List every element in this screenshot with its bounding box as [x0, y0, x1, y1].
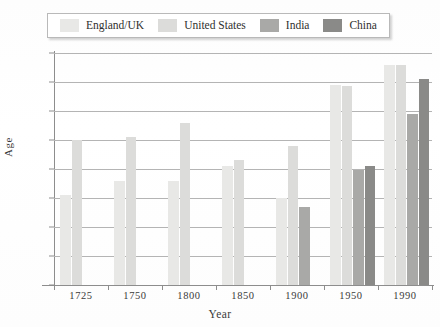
y-axis-tick-mark — [49, 198, 54, 199]
bar[interactable] — [222, 166, 233, 285]
bar[interactable] — [299, 207, 310, 285]
bar[interactable] — [126, 137, 137, 285]
bar[interactable] — [330, 85, 341, 285]
bar-group — [114, 53, 160, 285]
bar[interactable] — [168, 181, 179, 285]
y-axis-tick-mark — [49, 140, 54, 141]
bar-group — [60, 53, 106, 285]
x-axis-tick-mark — [216, 285, 217, 290]
chart-page: England/UKUnited StatesIndiaChina Age 01… — [0, 0, 440, 327]
x-axis-tick-label: 1850 — [231, 290, 254, 301]
y-axis-tick-mark — [49, 256, 54, 257]
bar[interactable] — [276, 198, 287, 285]
legend-entry[interactable]: England/UK — [60, 19, 144, 32]
bar-group — [384, 53, 430, 285]
bar-group — [276, 53, 322, 285]
x-axis-line — [42, 285, 434, 286]
x-axis-tick-mark — [432, 285, 433, 290]
y-axis-tick-mark — [49, 169, 54, 170]
y-axis-tick-mark — [49, 111, 54, 112]
legend-swatch-icon — [158, 19, 177, 32]
x-axis-tick-mark — [162, 285, 163, 290]
bar[interactable] — [72, 140, 83, 285]
bar[interactable] — [114, 181, 125, 285]
x-axis-tick-label: 1900 — [285, 290, 308, 301]
legend-entry[interactable]: India — [260, 19, 310, 32]
legend-swatch-icon — [60, 19, 79, 32]
legend-swatch-icon — [323, 19, 342, 32]
bar-group — [330, 53, 376, 285]
x-axis-tick-label: 1725 — [69, 290, 92, 301]
legend-swatch-icon — [260, 19, 279, 32]
x-axis-tick-label: 1800 — [177, 290, 200, 301]
bar[interactable] — [353, 170, 364, 285]
legend-entry[interactable]: United States — [158, 19, 246, 32]
bar[interactable] — [384, 65, 395, 285]
bar-group — [168, 53, 214, 285]
y-axis-tick-mark — [49, 227, 54, 228]
bar[interactable] — [234, 160, 245, 285]
x-axis-tick-mark — [378, 285, 379, 290]
x-axis-tick-mark — [54, 285, 55, 290]
bar[interactable] — [396, 65, 407, 285]
x-axis-tick-label: 1990 — [393, 290, 416, 301]
y-axis-tick-mark — [49, 53, 54, 54]
bar-group — [222, 53, 268, 285]
bar[interactable] — [365, 166, 376, 285]
bar[interactable] — [407, 114, 418, 285]
legend-label: England/UK — [86, 20, 144, 32]
bar[interactable] — [60, 195, 71, 285]
x-axis-tick-label: 1950 — [339, 290, 362, 301]
x-axis-tick-mark — [108, 285, 109, 290]
legend-label: India — [286, 20, 310, 32]
bar[interactable] — [180, 123, 191, 285]
x-axis-title: Year — [0, 308, 440, 320]
x-axis-tick-mark — [324, 285, 325, 290]
bar[interactable] — [288, 146, 299, 285]
bar[interactable] — [419, 79, 430, 285]
legend-label: China — [349, 20, 376, 32]
legend-entry[interactable]: China — [323, 19, 376, 32]
plot-area — [54, 53, 432, 285]
y-axis-tick-mark — [49, 82, 54, 83]
legend-label: United States — [184, 20, 246, 32]
x-axis-tick-label: 1750 — [123, 290, 146, 301]
y-axis-tick-mark — [49, 285, 54, 286]
x-axis-tick-mark — [270, 285, 271, 290]
y-axis-title: Age — [2, 137, 14, 157]
chart-legend: England/UKUnited StatesIndiaChina — [47, 13, 390, 38]
bar[interactable] — [342, 86, 353, 285]
